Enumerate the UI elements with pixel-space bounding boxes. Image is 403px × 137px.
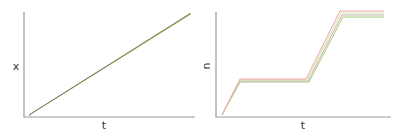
left-chart: x t [13,12,195,132]
right-y-label: n [200,62,213,69]
right-chart: n t [200,11,391,132]
left-y-label: x [13,60,20,73]
right-line-lightgreen [222,13,384,115]
figure: x t n t [0,0,403,137]
right-axes [216,12,391,117]
right-line-red [222,11,384,115]
left-line-gray [29,14,190,116]
right-line-green [222,17,384,115]
right-line-gray [222,15,384,115]
left-x-label: t [102,119,107,132]
right-x-label: t [301,119,306,132]
